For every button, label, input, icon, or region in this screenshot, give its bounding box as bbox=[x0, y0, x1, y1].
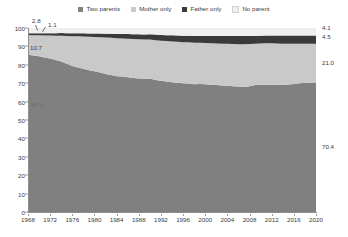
y-axis-labels: 0102030405060708090100 bbox=[0, 28, 25, 212]
square-swatch-icon bbox=[78, 7, 83, 12]
annotation-no-parent-end: 4.1 bbox=[322, 24, 331, 32]
square-swatch-icon bbox=[131, 7, 136, 12]
annotation-father-only-end: 4.5 bbox=[322, 33, 331, 41]
x-axis-tick-1996: 1996 bbox=[176, 216, 190, 224]
annotation-two-parents-start: 85.4 bbox=[31, 101, 43, 109]
x-axis-tick-1976: 1976 bbox=[65, 216, 79, 224]
y-axis-tick-mark bbox=[25, 28, 28, 29]
x-axis-tick-1980: 1980 bbox=[88, 216, 102, 224]
annotation-two-parents-end: 70.4 bbox=[322, 143, 334, 151]
x-axis-tick-2012: 2012 bbox=[265, 216, 279, 224]
y-axis-tick-mark bbox=[25, 101, 28, 102]
x-axis-tick-mark bbox=[50, 214, 51, 216]
x-axis-tick-1984: 1984 bbox=[110, 216, 124, 224]
x-axis-tick-mark bbox=[250, 214, 251, 216]
x-axis-tick-mark bbox=[94, 214, 95, 216]
stacked-area-svg bbox=[28, 28, 316, 212]
legend-label: No parent bbox=[242, 5, 269, 13]
legend-label: Two parents bbox=[86, 5, 120, 13]
x-axis-tick-mark bbox=[316, 214, 317, 216]
x-axis-tick-1992: 1992 bbox=[154, 216, 168, 224]
y-axis-line bbox=[28, 28, 29, 213]
y-axis-tick-mark bbox=[25, 193, 28, 194]
x-axis-tick-1972: 1972 bbox=[43, 216, 57, 224]
x-axis-tick-mark bbox=[227, 214, 228, 216]
annotation-mother-only-end: 21.0 bbox=[322, 59, 334, 67]
legend-item-no-parent[interactable]: No parent bbox=[232, 5, 269, 13]
y-axis-tick-100: 100 bbox=[0, 25, 25, 32]
square-swatch-icon bbox=[232, 6, 239, 13]
x-axis-tick-mark bbox=[117, 214, 118, 216]
x-axis-tick-2020: 2020 bbox=[309, 216, 323, 224]
y-axis-tick-mark bbox=[25, 83, 28, 84]
legend-item-mother-only[interactable]: Mother only bbox=[131, 5, 171, 13]
y-axis-tick-mark bbox=[25, 64, 28, 65]
x-axis-tick-1968: 1968 bbox=[21, 216, 35, 224]
plot-area bbox=[28, 28, 316, 212]
y-axis-tick-mark bbox=[25, 175, 28, 176]
x-axis-tick-1988: 1988 bbox=[132, 216, 146, 224]
y-axis-tick-10: 10 bbox=[0, 190, 25, 197]
legend-item-father-only[interactable]: Father only bbox=[182, 5, 221, 13]
annotation-no-parent-start: 2.8 bbox=[32, 17, 41, 25]
x-axis-tick-2008: 2008 bbox=[243, 216, 257, 224]
x-axis-tick-2004: 2004 bbox=[220, 216, 234, 224]
x-axis-tick-mark bbox=[72, 214, 73, 216]
x-axis-tick-mark bbox=[183, 214, 184, 216]
x-axis-labels: 1968197219761980198419881992199620002004… bbox=[0, 214, 348, 228]
stacked-area-chart: Two parentsMother onlyFather onlyNo pare… bbox=[0, 0, 348, 237]
legend-label: Mother only bbox=[139, 5, 171, 13]
y-axis-tick-20: 20 bbox=[0, 172, 25, 179]
x-axis-line bbox=[28, 212, 317, 213]
x-axis-tick-2000: 2000 bbox=[198, 216, 212, 224]
x-axis-tick-mark bbox=[161, 214, 162, 216]
y-axis-tick-90: 90 bbox=[0, 43, 25, 50]
y-axis-tick-mark bbox=[25, 46, 28, 47]
x-axis-tick-mark bbox=[272, 214, 273, 216]
y-axis-tick-40: 40 bbox=[0, 135, 25, 142]
legend-item-two-parents[interactable]: Two parents bbox=[78, 5, 120, 13]
square-swatch-icon bbox=[182, 7, 187, 12]
x-axis-tick-2016: 2016 bbox=[287, 216, 301, 224]
chart-legend: Two parentsMother onlyFather onlyNo pare… bbox=[0, 3, 348, 15]
y-axis-tick-mark bbox=[25, 156, 28, 157]
legend-label: Father only bbox=[190, 5, 221, 13]
y-axis-tick-80: 80 bbox=[0, 61, 25, 68]
y-axis-tick-mark bbox=[25, 212, 28, 213]
y-axis-tick-30: 30 bbox=[0, 153, 25, 160]
x-axis-tick-mark bbox=[294, 214, 295, 216]
y-axis-tick-50: 50 bbox=[0, 117, 25, 124]
annotation-mother-only-start: 10.7 bbox=[30, 44, 42, 52]
y-axis-tick-70: 70 bbox=[0, 80, 25, 87]
y-axis-tick-mark bbox=[25, 120, 28, 121]
x-axis-tick-mark bbox=[28, 214, 29, 216]
y-axis-tick-60: 60 bbox=[0, 98, 25, 105]
y-axis-tick-mark bbox=[25, 138, 28, 139]
x-axis-tick-mark bbox=[139, 214, 140, 216]
x-axis-tick-mark bbox=[205, 214, 206, 216]
annotation-father-only-start: 1.1 bbox=[48, 21, 57, 29]
